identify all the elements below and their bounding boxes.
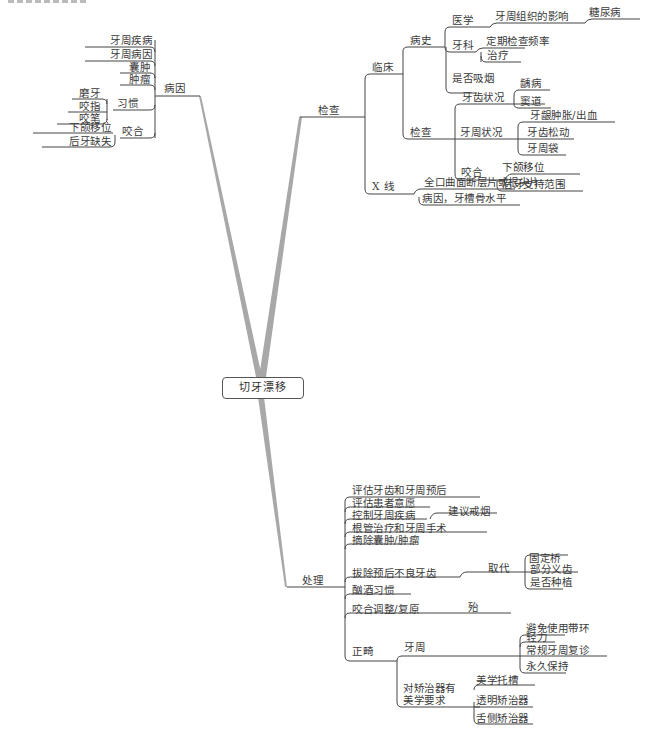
node-gingival-swelling[interactable]: 牙龈肿胀/出血 (530, 109, 597, 122)
node-occlusion-cause[interactable]: 咬合 (122, 125, 143, 138)
node-implant[interactable]: 是否种植 (530, 576, 572, 589)
node-alcohol-habit[interactable]: 酗酒习惯 (352, 584, 394, 597)
node-habit[interactable]: 习惯 (117, 97, 138, 110)
node-clinical[interactable]: 临床 (372, 61, 393, 74)
node-xray[interactable]: X 线 (372, 180, 394, 193)
node-checkup-frequency[interactable]: 定期检查频率 (486, 35, 549, 48)
node-bruxism[interactable]: 磨牙 (60, 87, 100, 100)
node-occlusal-adjust[interactable]: 咬合调整/复原 (352, 603, 419, 616)
node-ortho-perio[interactable]: 牙周 (404, 641, 425, 654)
node-orthodontics[interactable]: 正畸 (352, 645, 373, 658)
trunk-to-exam (259, 117, 302, 377)
node-sinus-tract[interactable]: 窦道 (520, 95, 541, 108)
node-panoramic[interactable]: 全口曲面断层片或根尖片 (424, 176, 540, 189)
node-posterior-loss[interactable]: 后牙缺失 (45, 135, 111, 148)
node-history[interactable]: 病史 (410, 34, 431, 47)
node-perio-pocket[interactable]: 牙周袋 (527, 142, 559, 155)
node-partial-denture[interactable]: 部分义齿 (530, 563, 572, 576)
node-diabetes[interactable]: 糖尿病 (589, 6, 621, 19)
node-treatment[interactable]: 处理 (302, 574, 323, 587)
trunk-branches (199, 96, 302, 587)
node-exam[interactable]: 检查 (318, 104, 339, 117)
node-exam-mandible-shift[interactable]: 下颌移位 (502, 161, 544, 174)
node-medical[interactable]: 医学 (452, 14, 473, 27)
node-dental-status[interactable]: 牙齿状况 (462, 91, 504, 104)
node-perio-tissue-effect[interactable]: 牙周组织的影响 (495, 10, 569, 23)
node-aesthetic-line2[interactable]: 美学要求 (403, 694, 445, 707)
node-lingual-appliance[interactable]: 舌侧矫治器 (476, 712, 529, 725)
node-examination[interactable]: 检查 (410, 126, 431, 139)
node-treatment-history[interactable]: 治疗 (487, 49, 508, 62)
node-tooth-mobility[interactable]: 牙齿松动 (527, 126, 569, 139)
node-perio-status[interactable]: 牙周状况 (460, 126, 502, 139)
node-clear-aligner[interactable]: 透明矫治器 (476, 694, 529, 707)
node-mandible-shift[interactable]: 下颌移位 (45, 121, 111, 134)
node-dental-history[interactable]: 牙科 (452, 39, 473, 52)
node-etiology[interactable]: 病因 (164, 82, 185, 95)
node-tumor[interactable]: 肿瘤 (110, 73, 150, 86)
trunk-to-treatment (258, 397, 287, 587)
root-node[interactable]: 切牙漂移 (222, 377, 304, 399)
node-replace[interactable]: 取代 (488, 562, 509, 575)
node-aesthetic-brackets[interactable]: 美学托槽 (476, 674, 518, 687)
node-periodontal-disease[interactable]: 牙周疾病 (90, 34, 152, 47)
node-assess-prognosis[interactable]: 评估牙齿和牙周预后 (352, 484, 447, 497)
node-caries[interactable]: 龋病 (520, 77, 541, 90)
node-light-force[interactable]: 轻力 (526, 631, 547, 644)
node-permanent-retention[interactable]: 永久保持 (526, 660, 568, 673)
node-quit-smoking[interactable]: 建议戒烟 (448, 505, 490, 518)
trunk-to-etiology (199, 96, 262, 377)
node-routine-recall[interactable]: 常规牙周复诊 (526, 644, 589, 657)
node-control-perio[interactable]: 控制牙周疾病 (352, 509, 415, 522)
node-smoking[interactable]: 是否吸烟 (452, 72, 494, 85)
node-occlusion-symbol[interactable]: 殆 (468, 601, 479, 614)
node-periodontal-cause[interactable]: 牙周病因 (90, 48, 152, 61)
node-remove-cyst[interactable]: 摘除囊肿/肿瘤 (352, 534, 419, 547)
node-bone-level[interactable]: 病因，牙槽骨水平 (422, 192, 506, 205)
node-extract-teeth[interactable]: 拔除预后不良牙齿 (352, 567, 436, 580)
